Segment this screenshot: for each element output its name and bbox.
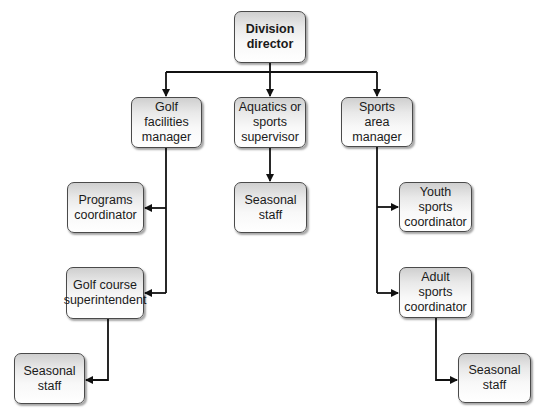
node-label: Golf course superintendent	[64, 278, 147, 308]
connector-to-seasonal-right	[436, 318, 457, 380]
node-adult-sports-coordinator: Adult sports coordinator	[399, 267, 472, 318]
node-seasonal-staff-center: Seasonal staff	[234, 182, 307, 233]
node-label: Youth sports coordinator	[403, 185, 468, 230]
node-aquatics-supervisor: Aquatics or sports supervisor	[234, 97, 306, 148]
node-label: Golf facilities manager	[135, 100, 198, 145]
node-division-director: Division director	[234, 11, 306, 63]
connector-director-bus	[166, 63, 377, 72]
node-golf-course-superintendent: Golf course superintendent	[66, 267, 144, 319]
node-label: Seasonal staff	[468, 363, 520, 393]
node-sports-area-manager: Sports area manager	[341, 97, 413, 147]
connector-to-seasonal-left	[86, 319, 108, 380]
node-golf-facilities-manager: Golf facilities manager	[131, 97, 202, 148]
node-seasonal-staff-right: Seasonal staff	[458, 353, 531, 403]
node-label: Division director	[246, 22, 295, 52]
node-label: Adult sports coordinator	[403, 270, 468, 315]
node-label: Seasonal staff	[244, 193, 296, 223]
node-youth-sports-coordinator: Youth sports coordinator	[399, 182, 472, 232]
node-seasonal-staff-left: Seasonal staff	[14, 353, 85, 404]
node-label: Seasonal staff	[23, 364, 75, 394]
node-label: Programs coordinator	[74, 193, 137, 223]
node-label: Sports area manager	[345, 100, 409, 145]
node-label: Aquatics or sports supervisor	[239, 100, 302, 145]
node-programs-coordinator: Programs coordinator	[67, 182, 144, 233]
